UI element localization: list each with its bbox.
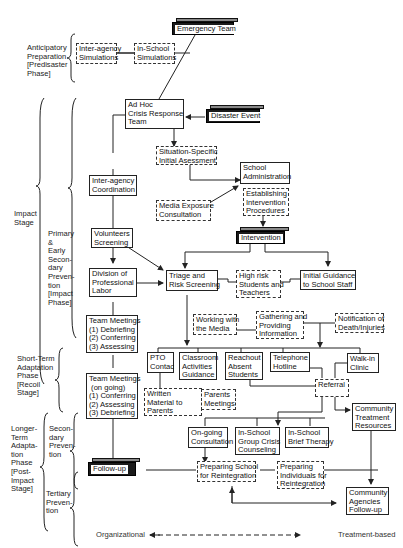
pto-contact-box: PTO Contac <box>147 352 174 373</box>
stage-primary-prevention: Primary & Early Secon- dary Preven- tion… <box>48 230 75 307</box>
community-agencies-box: Community Agencies Follow-up <box>346 487 389 515</box>
parents-meetings-box: Parents Meetings <box>201 389 236 410</box>
stage-tertiary-prevention: Tertiary Preven- tion <box>46 490 73 516</box>
intervention-box: Intervention <box>236 231 285 244</box>
team-meetings-1-box: Team Meetings (1) Debriefing (2) Conferr… <box>86 315 138 353</box>
gathering-information-box: Gathering and Providing Information <box>256 311 304 339</box>
preparing-individuals-box: Preparing Individuals for Reintegration <box>277 461 324 489</box>
referral-box: Referral <box>315 379 349 397</box>
interagency-coordination-box: Inter-agency Coordination <box>89 175 137 196</box>
walkin-clinic-box: Walk-in Clinic <box>347 353 379 373</box>
reachout-students-box: Reachout Absent Students <box>225 352 263 380</box>
triage-box: Triage and Risk Screening <box>166 270 218 291</box>
preparing-school-box: Preparing School for Reintegration <box>197 461 256 482</box>
situation-assessment-box: Situation-Specific Initial Asessment <box>156 146 217 165</box>
high-risk-box: High risk Students and Teachers <box>236 270 281 298</box>
classroom-activities-box: Classroom Activities Guidance <box>179 352 217 380</box>
stage-short-term: Short-Term Adaptation Phase [Recoil Stag… <box>17 355 55 398</box>
media-exposure-box: Media Exposure Consultation <box>156 200 211 221</box>
stage-impact: Impact Stage <box>14 210 37 227</box>
telephone-hotline-box: Telephone Hotline <box>270 352 310 372</box>
emergency-team-box: Emergency Team <box>172 22 234 35</box>
school-administration-box: School Administration <box>240 162 290 184</box>
community-treatment-box: Community Treatment Resources <box>352 403 396 431</box>
volunteers-screening-box: Volunteers Screening <box>91 228 133 248</box>
stage-secondary-prevention: Secon- dary Preven- tion <box>49 425 76 459</box>
interagency-simulations-box: Inter-agency Simulations <box>76 43 117 64</box>
establishing-procedures-box: Establishing Intervention Procedures <box>243 188 289 216</box>
flowchart: Anticipatory Preparation [Predisaster Ph… <box>0 0 403 548</box>
follow-up-label: Follow-up <box>91 465 128 474</box>
adhoc-team-box: Ad Hoc Crisis Response Team <box>125 99 184 129</box>
stage-longer-term: Longer- Term Adapta- tion Phase [Post- I… <box>11 425 38 494</box>
ongoing-consultation-box: On-going Consultation <box>188 427 228 448</box>
division-labor-box: Division of Professional Labor <box>89 268 137 297</box>
notification-box: Notification of Death/Injuries <box>335 313 384 333</box>
disaster-event-label: Disaster Event <box>209 112 262 121</box>
follow-up-box: Follow-up <box>88 462 136 476</box>
team-meetings-2-box: Team Meetings (on going) (1) Conferring … <box>86 373 138 419</box>
stage-anticipatory: Anticipatory Preparation [Predisaster Ph… <box>27 44 68 78</box>
brief-therapy-box: In-School Brief Therapy <box>285 427 329 448</box>
disaster-event-box: Disaster Event <box>206 109 260 123</box>
axis-label-organizational: Organizational <box>96 530 145 539</box>
group-crisis-box: In-School Group Crisis Counseling <box>235 427 280 455</box>
axis-label-treatment-based: Treatment-based <box>338 530 396 539</box>
written-material-box: Written Material to Parents <box>144 388 202 416</box>
initial-guidance-box: Initial Guidance to School Staff <box>300 270 356 290</box>
emergency-team-label: Emergency Team <box>175 25 238 34</box>
intervention-label: Intervention <box>239 234 283 243</box>
inschool-simulations-box: In-School Simulations <box>134 43 175 64</box>
working-media-box: Working with the Media <box>193 314 237 335</box>
